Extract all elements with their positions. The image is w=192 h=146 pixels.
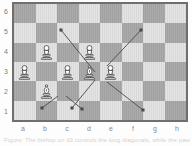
arrow-overlay: [14, 4, 186, 120]
move-arrow-d3-f5: [107, 30, 141, 66]
chess-diagram-figure: 654321 abcdefgh Figure: The bishop on d3…: [0, 0, 192, 146]
file-label-b: b: [39, 124, 51, 134]
rank-label-6: 6: [1, 8, 11, 16]
chess-board[interactable]: [14, 4, 186, 120]
file-label-e: e: [105, 124, 117, 134]
file-label-a: a: [17, 124, 29, 134]
rank-label-axis: 654321: [0, 2, 12, 122]
rank-label-4: 4: [1, 48, 11, 56]
move-arrow-b2-a1: [42, 96, 58, 108]
figure-caption: Figure: The bishop on d3 controls the lo…: [4, 136, 190, 145]
rank-label-3: 3: [1, 68, 11, 76]
rank-label-5: 5: [1, 28, 11, 36]
file-label-f: f: [127, 124, 139, 134]
file-label-g: g: [149, 124, 161, 134]
rank-label-2: 2: [1, 88, 11, 96]
board-frame: [12, 2, 188, 122]
file-label-c: c: [61, 124, 73, 134]
move-arrow-d3-b5: [61, 30, 95, 72]
move-arrow-d3-f1: [107, 82, 143, 110]
move-arrow-b2-c1: [66, 96, 82, 109]
file-label-axis: abcdefgh: [12, 124, 188, 135]
rank-label-1: 1: [1, 108, 11, 116]
file-label-h: h: [171, 124, 183, 134]
file-label-d: d: [83, 124, 95, 134]
